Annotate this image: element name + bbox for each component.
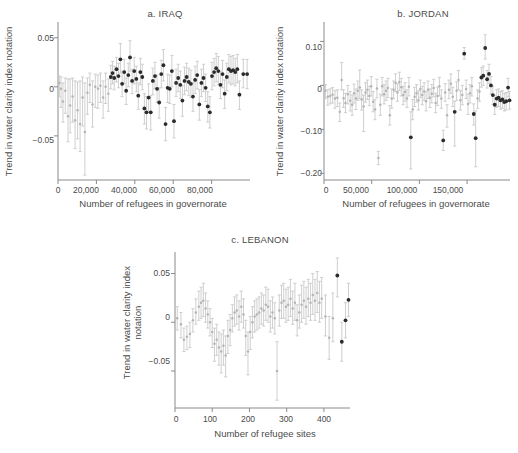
panel-jordan: b. JORDAN Trend in water clarity index n… (258, 0, 518, 225)
panel-lebanon: c. LEBANON Trend in water clarity index … (100, 228, 400, 453)
error-bars (324, 35, 511, 169)
error-bars (176, 258, 350, 400)
panel-iraq: a. IRAQ Trend in water clarity index not… (0, 0, 258, 225)
panel-lebanon-plot-area (100, 228, 400, 428)
panel-jordan-plot-area (258, 0, 518, 200)
panel-iraq-plot-area (0, 0, 258, 200)
error-bars (58, 41, 249, 175)
panel-lebanon-xlabel: Number of refugee sites (165, 428, 365, 439)
